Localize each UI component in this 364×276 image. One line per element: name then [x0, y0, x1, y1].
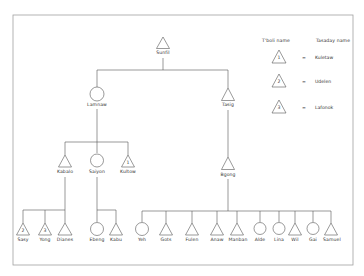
legend-equals-3: = — [302, 105, 306, 110]
saiyon-female-symbol — [91, 154, 104, 167]
label-wil: Wil — [291, 237, 298, 242]
legend-name-1: Kuletaw — [315, 55, 333, 60]
sunfil-male-symbol — [157, 37, 170, 49]
label-dianes: Dianes — [57, 237, 73, 242]
label-tasig: Tasig — [222, 102, 234, 107]
tasig-male-symbol — [222, 88, 235, 101]
wil-male-symbol — [289, 223, 302, 235]
label-ebeng: Ebeng — [90, 237, 105, 242]
ebeng-female-symbol — [91, 223, 104, 236]
legend-equals-2: = — [302, 79, 306, 84]
kinship-diagram — [0, 0, 364, 276]
dianes-male-symbol — [58, 223, 72, 235]
diagram-frame — [13, 15, 353, 265]
kabalo-male-symbol — [59, 155, 72, 167]
legend-header-tboli: T'boli name — [262, 38, 290, 43]
bgong-male-symbol — [222, 157, 235, 170]
lina-female-symbol — [273, 223, 285, 235]
legend-number-3: 3 — [277, 105, 280, 110]
label-alde: Alde — [255, 237, 266, 242]
label-bgong: Bgong — [220, 172, 235, 177]
label-samuel: Samuel — [323, 237, 341, 242]
label-gai: Gai — [309, 237, 317, 242]
label-lina: Lina — [274, 237, 284, 242]
anaw-male-symbol — [211, 223, 224, 235]
gots-male-symbol — [160, 223, 173, 235]
marker-yong: 3 — [43, 228, 46, 233]
legend-name-3: Lafonok — [315, 105, 333, 110]
label-yong: Yong — [39, 237, 50, 242]
lamnaw-female-symbol — [90, 87, 104, 101]
label-anaw: Anaw — [210, 237, 223, 242]
manban-male-symbol — [231, 223, 244, 235]
label-sunfil: Sunfil — [156, 50, 170, 55]
marker-sasy: 2 — [21, 228, 24, 233]
legend-equals-1: = — [302, 55, 306, 60]
fulen-male-symbol — [186, 223, 199, 235]
label-fulen: Fulen — [186, 237, 199, 242]
label-saiyon: Saiyon — [89, 169, 105, 174]
legend-number-1: 1 — [277, 55, 280, 60]
legend-header-tasaday: Tasaday name — [316, 38, 350, 43]
label-yeh: Yeh — [138, 237, 146, 242]
marker-kultow: 1 — [126, 160, 129, 165]
label-lamnaw: Lamnaw — [87, 102, 107, 107]
label-kultow: Kultow — [120, 169, 136, 174]
label-manban: Manban — [229, 237, 248, 242]
kabu-male-symbol — [110, 223, 123, 235]
gai-female-symbol — [307, 223, 319, 235]
label-kabu: Kabu — [110, 237, 122, 242]
legend-number-2: 2 — [277, 79, 280, 84]
label-gots: Gots — [161, 237, 172, 242]
legend-name-2: Udelen — [315, 79, 331, 84]
yeh-female-symbol — [136, 223, 149, 236]
samuel-male-symbol — [325, 223, 338, 235]
alde-female-symbol — [254, 223, 266, 235]
label-sasy: Sasy — [17, 237, 28, 242]
label-kabalo: Kabalo — [57, 169, 73, 174]
